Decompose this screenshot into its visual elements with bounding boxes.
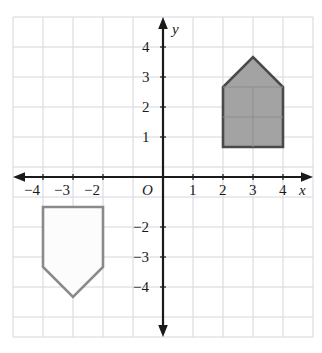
y-tick-label-neg2: −2: [133, 220, 149, 235]
y-tick-label-neg4: −4: [133, 280, 149, 295]
outlined-house-shape: [43, 207, 103, 297]
x-tick-label-3: 3: [249, 183, 257, 198]
x-axis-arrow-right-icon: [301, 172, 313, 182]
origin-label: O: [142, 183, 153, 198]
y-axis-label: y: [172, 22, 179, 37]
x-axis-arrow-left-icon: [13, 172, 25, 182]
coordinate-plane-figure: −4 −3 −2 1 2 3 4 4 3 2 1 −2 −3 −4 O x y: [0, 0, 322, 353]
x-axis-label: x: [299, 183, 306, 198]
x-tick-label-neg3: −3: [54, 183, 70, 198]
y-tick-label-neg3: −3: [133, 250, 149, 265]
x-tick-label-neg4: −4: [24, 183, 40, 198]
coordinate-plane-svg: [0, 0, 322, 353]
y-tick-label-3: 3: [142, 70, 150, 85]
y-tick-label-4: 4: [142, 40, 150, 55]
y-axis-arrow-down-icon: [158, 325, 168, 337]
x-tick-label-2: 2: [219, 183, 227, 198]
x-tick-label-neg2: −2: [84, 183, 100, 198]
y-tick-label-1: 1: [142, 130, 150, 145]
y-axis-arrow-up-icon: [158, 17, 168, 29]
x-tick-label-1: 1: [189, 183, 197, 198]
x-tick-label-4: 4: [279, 183, 287, 198]
y-tick-label-2: 2: [142, 100, 150, 115]
